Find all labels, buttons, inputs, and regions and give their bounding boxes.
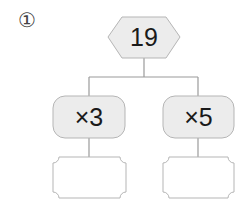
operation-left-label: ×3 [53, 102, 125, 132]
answer-box-left[interactable] [53, 157, 126, 198]
operation-right-label: ×5 [163, 102, 234, 132]
root-value: 19 [108, 23, 180, 51]
problem-number: ① [14, 8, 40, 32]
answer-box-right[interactable] [163, 157, 234, 198]
